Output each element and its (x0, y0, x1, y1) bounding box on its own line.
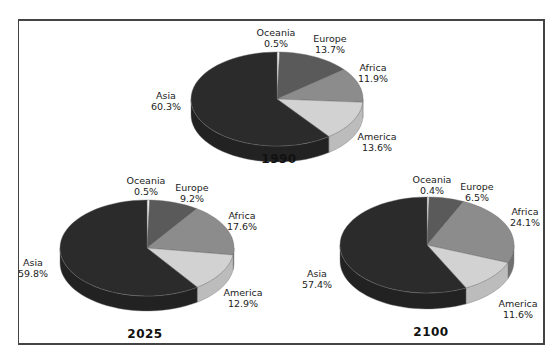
pie-chart-2100 (340, 197, 514, 309)
slice-label-america: America13.6% (357, 131, 396, 153)
slice-label-value: 13.7% (313, 44, 346, 55)
slice-label-value: 6.5% (460, 192, 493, 203)
slice-label-name: Africa (227, 210, 257, 221)
slice-label-value: 0.4% (413, 185, 452, 196)
slice-label-name: Europe (313, 33, 346, 44)
slice-label-name: Oceania (413, 174, 452, 185)
slice-label-name: Asia (151, 90, 181, 101)
slice-label-value: 13.6% (357, 142, 396, 153)
slice-label-america: America11.6% (498, 298, 537, 320)
slice-label-europe: Europe9.2% (175, 182, 208, 204)
slice-label-asia: Asia60.3% (151, 90, 181, 112)
slice-label-oceania: Oceania0.5% (127, 175, 166, 197)
slice-label-value: 24.1% (510, 217, 540, 228)
slice-label-name: Oceania (257, 27, 296, 38)
slice-label-africa: Africa11.9% (358, 62, 388, 84)
slice-label-value: 11.9% (358, 73, 388, 84)
slice-label-asia: Asia59.8% (18, 257, 48, 279)
slice-label-name: Europe (175, 182, 208, 193)
slice-label-name: America (357, 131, 396, 142)
slice-label-asia: Asia57.4% (302, 268, 332, 290)
slice-label-value: 60.3% (151, 101, 181, 112)
slice-label-name: Europe (460, 181, 493, 192)
slice-label-name: America (223, 287, 262, 298)
pie-chart-1990 (191, 52, 363, 162)
slice-label-value: 12.9% (223, 298, 262, 309)
slice-label-name: Africa (358, 62, 388, 73)
slice-label-africa: Africa17.6% (227, 210, 257, 232)
slice-label-name: Oceania (127, 175, 166, 186)
slice-label-value: 17.6% (227, 221, 257, 232)
slice-label-value: 11.6% (498, 309, 537, 320)
chart-title-2100: 2100 (413, 325, 448, 339)
slice-label-name: America (498, 298, 537, 309)
pie-chart-2025 (60, 200, 234, 311)
slice-label-oceania: Oceania0.5% (257, 27, 296, 49)
slice-label-value: 57.4% (302, 279, 332, 290)
slice-label-europe: Europe6.5% (460, 181, 493, 203)
slice-label-value: 9.2% (175, 193, 208, 204)
slice-label-africa: Africa24.1% (510, 206, 540, 228)
slice-label-oceania: Oceania0.4% (413, 174, 452, 196)
slice-label-name: Africa (510, 206, 540, 217)
slice-label-value: 0.5% (257, 38, 296, 49)
chart-title-2025: 2025 (127, 327, 162, 341)
slice-label-europe: Europe13.7% (313, 33, 346, 55)
slice-label-name: Asia (302, 268, 332, 279)
slice-label-value: 0.5% (127, 186, 166, 197)
slice-label-value: 59.8% (18, 268, 48, 279)
slice-label-america: America12.9% (223, 287, 262, 309)
slice-label-name: Asia (18, 257, 48, 268)
chart-title-1990: 1990 (261, 152, 296, 166)
